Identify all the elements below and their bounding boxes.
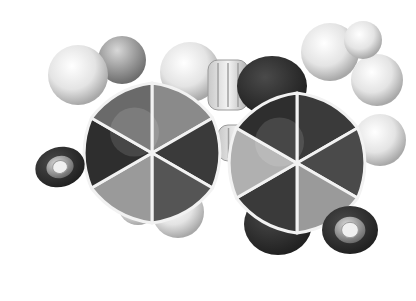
- end-cap-button: [342, 222, 359, 237]
- end-cap: [322, 206, 378, 254]
- ring-highlight: [255, 118, 304, 167]
- ring-highlight: [110, 108, 159, 157]
- left-aromatic-ring: [84, 83, 220, 223]
- end-cap: [31, 141, 90, 193]
- molecule-model-scene: [0, 0, 416, 301]
- hydrogen-sphere: [48, 45, 108, 105]
- hydrogen-sphere: [351, 54, 403, 106]
- hydrogen-sphere: [344, 21, 382, 59]
